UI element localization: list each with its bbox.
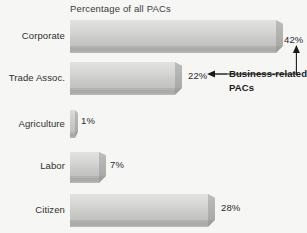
bar-labor-base xyxy=(70,176,99,183)
category-label-labor: Labor xyxy=(40,160,65,171)
category-label-citizen: Citizen xyxy=(35,204,65,215)
bar-labor-face xyxy=(70,152,99,176)
bar-trade-assoc-face xyxy=(70,62,175,88)
annotation-business-related-line1: Business-related xyxy=(229,68,307,80)
value-label-agriculture: 1% xyxy=(81,115,95,126)
bar-citizen-base xyxy=(70,220,208,227)
value-label-labor: 7% xyxy=(110,159,124,170)
bar-agriculture-base xyxy=(70,132,75,138)
bar-chart: Percentage of all PACs Corporate 42% Tra… xyxy=(0,0,307,233)
bar-citizen xyxy=(70,194,215,220)
value-label-corporate: 42% xyxy=(284,34,303,45)
bar-trade-assoc-cap xyxy=(175,62,182,88)
bar-agriculture-cap xyxy=(75,110,78,132)
value-label-citizen: 28% xyxy=(221,202,240,213)
bar-labor-cap xyxy=(99,152,106,176)
bar-labor-base-cap xyxy=(99,176,106,183)
value-label-trade-assoc: 22% xyxy=(188,70,207,81)
bar-citizen-cap xyxy=(208,194,215,220)
category-label-trade-assoc: Trade Assoc. xyxy=(9,72,65,83)
bar-trade-assoc xyxy=(70,62,182,88)
bar-labor xyxy=(70,152,106,176)
bar-agriculture-face xyxy=(70,110,75,132)
bar-corporate-base xyxy=(70,46,276,53)
bar-corporate xyxy=(70,20,283,46)
bar-trade-assoc-base xyxy=(70,88,175,95)
bar-corporate-cap xyxy=(276,20,283,46)
bar-agriculture xyxy=(70,110,77,132)
chart-title: Percentage of all PACs xyxy=(70,3,171,14)
category-label-corporate: Corporate xyxy=(22,30,65,41)
bar-corporate-base-cap xyxy=(276,46,283,53)
bar-corporate-face xyxy=(70,20,276,46)
bar-agriculture-base-cap xyxy=(75,132,78,138)
category-label-agriculture: Agriculture xyxy=(18,118,65,129)
bar-trade-assoc-base-cap xyxy=(175,88,182,95)
bar-citizen-base-cap xyxy=(208,220,215,227)
annotation-business-related-line2: PACs xyxy=(229,82,254,94)
bar-citizen-face xyxy=(70,194,208,220)
